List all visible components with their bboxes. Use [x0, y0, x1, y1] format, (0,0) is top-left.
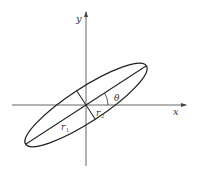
- r2-subscript: 2: [101, 113, 104, 119]
- r1-subscript: 1: [66, 127, 69, 133]
- x-axis-label: x: [173, 106, 179, 117]
- theta-label: θ: [114, 93, 120, 103]
- angle-arc: [105, 93, 109, 105]
- ellipse-diagram: y x θ r 1 r 2: [0, 0, 198, 179]
- y-axis-label: y: [75, 13, 82, 24]
